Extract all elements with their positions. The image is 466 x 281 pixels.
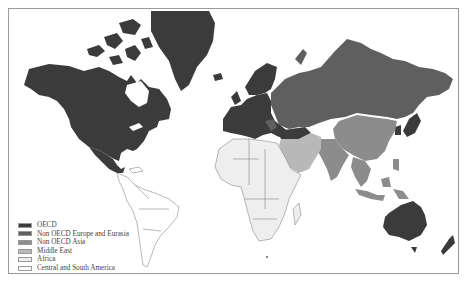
legend-swatch	[18, 266, 32, 271]
legend-label: Middle East	[37, 247, 72, 256]
legend-swatch	[18, 240, 32, 245]
legend-item-non-oecd-europe-eurasia: Non OECD Europe and Eurasia	[18, 230, 129, 239]
legend-label: OECD	[37, 221, 57, 230]
legend-swatch	[18, 257, 32, 262]
map-frame: OECD Non OECD Europe and Eurasia Non OEC…	[8, 8, 459, 274]
legend-item-oecd: OECD	[18, 221, 129, 230]
region-non-oecd-asia	[315, 115, 409, 201]
map-legend: OECD Non OECD Europe and Eurasia Non OEC…	[18, 221, 129, 273]
legend-item-central-south-america: Central and South America	[18, 264, 129, 273]
legend-label: Central and South America	[37, 264, 115, 273]
legend-label: Non OECD Asia	[37, 238, 85, 247]
legend-label: Africa	[37, 255, 55, 264]
legend-item-non-oecd-asia: Non OECD Asia	[18, 238, 129, 247]
legend-swatch	[18, 249, 32, 254]
legend-label: Non OECD Europe and Eurasia	[37, 230, 129, 239]
legend-swatch	[18, 231, 32, 236]
legend-item-africa: Africa	[18, 255, 129, 264]
legend-swatch	[18, 223, 32, 228]
legend-item-middle-east: Middle East	[18, 247, 129, 256]
